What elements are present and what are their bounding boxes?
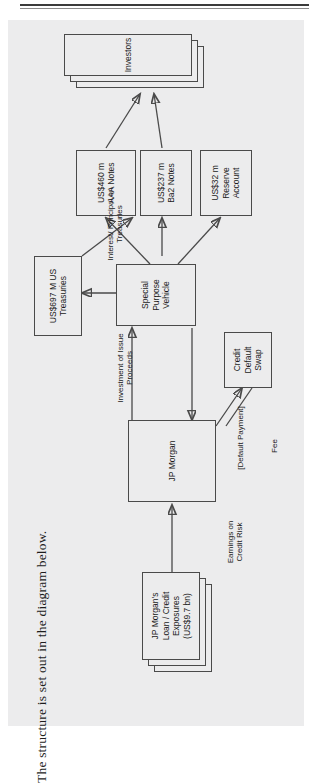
edge-label-fee-text: Fee [270, 439, 279, 453]
node-credit-default-swap-label: Credit Default Swap [232, 347, 264, 374]
node-ba2-notes: US$237 m Ba2 Notes [140, 150, 192, 216]
node-jp-morgan-label: JP Morgan [167, 441, 178, 482]
page-top-rule-thin [20, 8, 309, 9]
edge-label-investment-proceeds: Investment of Issue Proceeds [106, 320, 135, 416]
page-top-rule-thick [20, 4, 309, 6]
node-jp-morgan: JP Morgan [128, 420, 216, 502]
node-loan-exposures: JP Morgan's Loan / Credit Exposures (US$… [142, 572, 200, 660]
node-credit-default-swap: Credit Default Swap [224, 332, 272, 388]
edge-label-interest-principal: Interest/ Principal on Treasuries [96, 178, 125, 270]
scanned-page-body: The structure is set out in the diagram … [8, 20, 304, 726]
structure-diagram: Investors US$460 m AAA Notes US$237 m Ba… [20, 28, 304, 688]
node-reserve-account: US$32 m Reserve Account [200, 150, 252, 216]
diagram-canvas: Investors US$460 m AAA Notes US$237 m Ba… [20, 28, 304, 688]
edge-label-investment-proceeds-text: Investment of Issue Proceeds [116, 333, 135, 402]
node-ba2-notes-label: US$237 m Ba2 Notes [156, 163, 177, 203]
edge-label-earnings-credit-risk: Earnings on Credit Risk [216, 500, 245, 584]
edge-label-fee: Fee [260, 426, 279, 466]
edge-label-interest-principal-text: Interest/ Principal on Treasuries [106, 188, 125, 261]
node-investors-label: Investors [123, 38, 134, 73]
node-spv: Special Purpose Vehicle [116, 264, 196, 326]
node-spv-label: Special Purpose Vehicle [140, 279, 172, 311]
node-loan-exposures-label: JP Morgan's Loan / Credit Exposures (US$… [150, 592, 192, 641]
node-investors: Investors [64, 34, 192, 76]
node-us-treasuries-label: US$697 M US Treasuries [48, 269, 69, 323]
edge-label-earnings-credit-risk-text: Earnings on Credit Risk [226, 521, 245, 564]
node-reserve-account-label: US$32 m Reserve Account [210, 165, 242, 200]
edge-label-default-payment: [Default Payment] [226, 392, 245, 484]
node-us-treasuries: US$697 M US Treasuries [34, 256, 82, 336]
edge-label-default-payment-text: [Default Payment] [236, 406, 245, 470]
